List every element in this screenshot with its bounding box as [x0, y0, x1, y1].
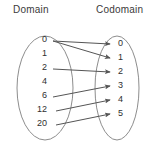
codomain-element-2: 2 [118, 67, 130, 76]
domain-element-0: 0 [31, 35, 47, 44]
codomain-title: Codomain [96, 4, 143, 15]
codomain-element-1: 1 [118, 53, 130, 62]
codomain-element-4: 4 [118, 95, 130, 104]
domain-title: Domain [13, 4, 49, 15]
domain-element-20: 20 [31, 119, 47, 128]
mapping-arrow-20-to-5 [56, 114, 110, 125]
codomain-element-3: 3 [118, 81, 130, 90]
domain-element-2: 2 [31, 63, 47, 72]
domain-element-6: 6 [31, 91, 47, 100]
domain-element-1: 1 [31, 49, 47, 58]
domain-element-12: 12 [31, 105, 47, 114]
mapping-arrow-6-to-3 [53, 86, 110, 97]
diagram-canvas [0, 0, 162, 155]
mapping-diagram: Domain Codomain 012461220 012345 [0, 0, 162, 155]
mapping-arrows [53, 41, 110, 125]
mapping-arrow-12-to-4 [56, 100, 110, 111]
codomain-element-5: 5 [118, 109, 130, 118]
mapping-arrow-2-to-2 [53, 69, 110, 72]
domain-element-4: 4 [31, 77, 47, 86]
codomain-element-0: 0 [118, 39, 130, 48]
